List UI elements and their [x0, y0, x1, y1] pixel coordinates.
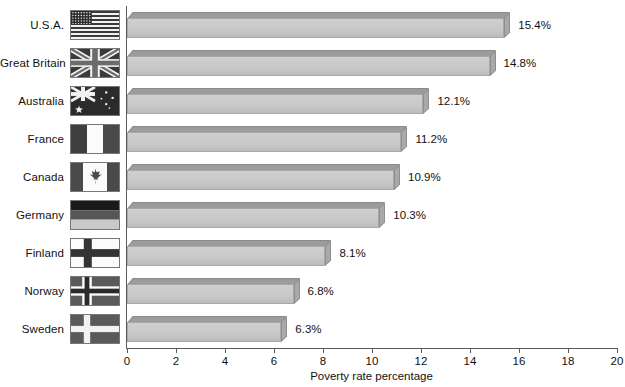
x-axis-tick [519, 348, 520, 353]
flag-france-icon [70, 124, 120, 154]
chart-row-great-britain: Great Britain 14.8% [0, 44, 625, 82]
country-label: Australia [0, 95, 64, 107]
x-axis-title: Poverty rate percentage [126, 370, 617, 382]
bar-side-face [504, 13, 510, 38]
bar-side-face [379, 203, 385, 228]
country-label: Great Britain [0, 57, 64, 69]
bar-side-face [325, 241, 331, 266]
x-axis-tick-label: 2 [173, 355, 179, 367]
bar-value-label: 10.3% [393, 209, 426, 221]
chart-row-canada: Canada 10.9% [0, 158, 625, 196]
flag-canada-icon [70, 162, 120, 192]
chart-row-finland: Finland 8.1% [0, 234, 625, 272]
bar [127, 126, 401, 152]
bar-value-label: 6.3% [295, 323, 321, 335]
chart-row-germany: Germany 10.3% [0, 196, 625, 234]
bar-front-face [127, 170, 394, 190]
x-axis-tick [127, 348, 128, 353]
bar [127, 240, 325, 266]
x-axis-tick-label: 4 [222, 355, 228, 367]
x-axis-tick-label: 16 [513, 355, 526, 367]
bar-front-face [127, 56, 490, 76]
bar-front-face [127, 208, 379, 228]
bar-value-label: 11.2% [415, 133, 447, 145]
x-axis-tick-label: 0 [124, 355, 130, 367]
bar [127, 50, 490, 76]
flag-usa-icon [70, 10, 120, 40]
country-label: Finland [0, 247, 64, 259]
x-axis-tick [568, 348, 569, 353]
bar-front-face [127, 94, 423, 114]
bar-front-face [127, 246, 325, 266]
chart-row-u-s-a: U.S.A. 15.4% [0, 6, 625, 44]
bar-side-face [401, 127, 407, 152]
flag-australia-icon [70, 86, 120, 116]
bar-front-face [127, 284, 294, 304]
x-axis-tick [225, 348, 226, 353]
x-axis-tick-label: 10 [366, 355, 379, 367]
x-axis-tick-label: 6 [271, 355, 277, 367]
x-axis-tick [274, 348, 275, 353]
bar-value-label: 12.1% [437, 95, 470, 107]
bar-side-face [423, 89, 429, 114]
country-label: U.S.A. [0, 19, 64, 31]
flag-great-britain-icon [70, 48, 120, 78]
bar-front-face [127, 322, 281, 342]
bar-side-face [281, 317, 287, 342]
country-label: Germany [0, 209, 64, 221]
bar [127, 88, 423, 114]
bar [127, 278, 294, 304]
country-label: France [0, 133, 64, 145]
x-axis-tick [470, 348, 471, 353]
x-axis-tick-label: 20 [611, 355, 624, 367]
x-axis-tick [421, 348, 422, 353]
bar-value-label: 10.9% [408, 171, 441, 183]
bar-value-label: 15.4% [518, 19, 551, 31]
chart-row-sweden: Sweden 6.3% [0, 310, 625, 348]
bar [127, 164, 394, 190]
flag-sweden-icon [70, 314, 120, 344]
x-axis-tick-label: 18 [562, 355, 575, 367]
poverty-rate-bar-chart: U.S.A. 15.4%Great Britain 14.8%Australia [0, 0, 625, 387]
flag-norway-icon [70, 276, 120, 306]
x-axis-tick [176, 348, 177, 353]
bar [127, 12, 504, 38]
bar-side-face [294, 279, 300, 304]
x-axis-tick-label: 12 [415, 355, 428, 367]
x-axis-tick-label: 8 [320, 355, 326, 367]
chart-row-france: France 11.2% [0, 120, 625, 158]
bar [127, 202, 379, 228]
bar-front-face [127, 18, 504, 38]
x-axis-tick [372, 348, 373, 353]
bar-side-face [394, 165, 400, 190]
x-axis-tick [323, 348, 324, 353]
country-label: Sweden [0, 323, 64, 335]
chart-row-norway: Norway 6.8% [0, 272, 625, 310]
bar-value-label: 14.8% [504, 57, 537, 69]
bar-front-face [127, 132, 401, 152]
bar-side-face [490, 51, 496, 76]
bar [127, 316, 281, 342]
flag-finland-icon [70, 238, 120, 268]
x-axis-tick-label: 14 [464, 355, 477, 367]
country-label: Canada [0, 171, 64, 183]
x-axis-tick [617, 348, 618, 353]
flag-germany-icon [70, 200, 120, 230]
bar-value-label: 6.8% [308, 285, 334, 297]
country-label: Norway [0, 285, 64, 297]
bar-value-label: 8.1% [339, 247, 365, 259]
chart-row-australia: Australia 12.1% [0, 82, 625, 120]
